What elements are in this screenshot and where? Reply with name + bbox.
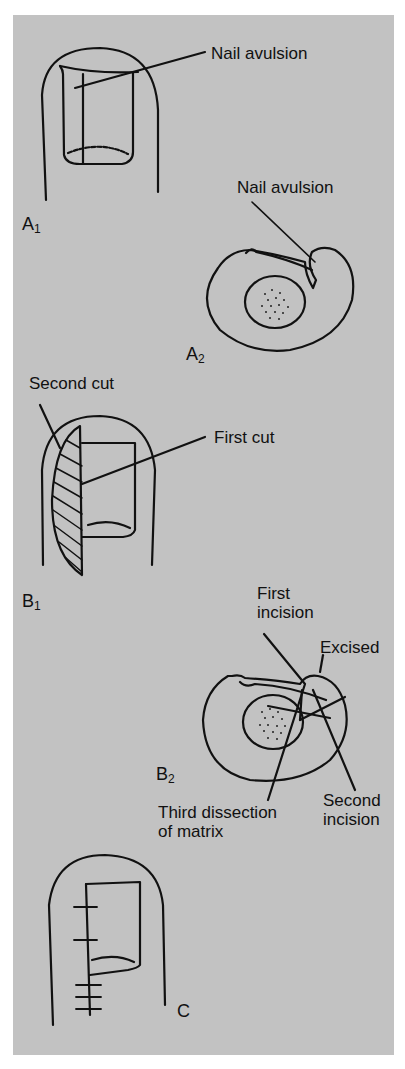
b1-second-cut-label: Second cut bbox=[29, 374, 114, 393]
a1-nail-avulsion-label: Nail avulsion bbox=[211, 44, 307, 63]
nail-surgery-drawings bbox=[0, 0, 405, 1069]
c-figure-label: C bbox=[177, 1001, 190, 1022]
b2-cross-section-drawing bbox=[203, 634, 355, 800]
a1-finger-drawing bbox=[42, 48, 205, 200]
a2-nail-avulsion-label: Nail avulsion bbox=[237, 178, 333, 197]
b2-first-incision-label: First incision bbox=[257, 584, 314, 622]
a2-matrix-stipple bbox=[261, 289, 289, 320]
b2-second-incision-label: Second incision bbox=[323, 791, 381, 829]
b2-matrix-stipple bbox=[259, 708, 286, 740]
b1-first-cut-label: First cut bbox=[214, 428, 274, 447]
b2-third-dissection-label: Third dissection of matrix bbox=[158, 803, 277, 841]
b2-figure-label: B2 bbox=[156, 764, 175, 786]
a2-cross-section-drawing bbox=[207, 202, 353, 351]
b2-excised-label: Excised bbox=[320, 638, 380, 657]
b1-figure-label: B1 bbox=[22, 591, 41, 613]
a1-figure-label: A1 bbox=[22, 214, 41, 236]
c-finger-drawing bbox=[49, 855, 165, 1025]
a2-figure-label: A2 bbox=[186, 344, 205, 366]
b1-finger-drawing bbox=[40, 405, 205, 575]
